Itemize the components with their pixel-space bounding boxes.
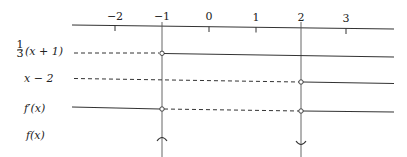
tick-label: 2	[298, 11, 305, 24]
row-label-f-prime: f′(x)	[23, 102, 45, 115]
row3-zero-point-minus-1	[160, 107, 164, 111]
tick-label: 0	[206, 10, 213, 23]
row2-negative-dashed	[74, 79, 299, 83]
row-label-f: f(x)	[25, 129, 45, 142]
row3-positive-solid-left	[72, 107, 160, 109]
tick-label: 1	[253, 11, 260, 24]
row-label-one-third-x-plus-1: 1 3 (x + 1)	[17, 38, 64, 60]
row3-positive-solid-right	[303, 111, 394, 112]
row1-positive-solid	[164, 54, 394, 58]
row3-zero-point-2	[299, 109, 303, 113]
row1-zero-point	[160, 51, 164, 55]
tick-label: −1	[154, 10, 170, 23]
row3-negative-dashed	[164, 109, 299, 111]
row-label-x-minus-2: x − 2	[24, 72, 53, 85]
row2-positive-solid	[303, 82, 394, 84]
svg-text:3: 3	[17, 47, 24, 60]
row2-zero-point	[299, 80, 303, 84]
svg-text:(x + 1): (x + 1)	[25, 45, 63, 58]
tick-label: −2	[107, 10, 123, 23]
tick-label: 3	[343, 12, 350, 25]
sign-chart: −2 −1 0 1 2 3 1 3 (x + 1) x − 2 f′(x) f(…	[0, 0, 407, 157]
